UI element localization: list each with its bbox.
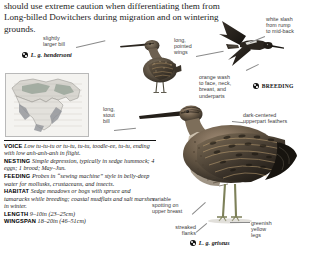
- label-greenish-yellow-legs: greenish yellow legs: [251, 220, 287, 239]
- fact-term-feeding: FEEDING: [4, 173, 30, 179]
- leader-line-legs: [230, 222, 250, 223]
- subspecies-marker-icon-2: [190, 240, 196, 246]
- label-white-slash-text: white slash from rump to mid-back: [266, 16, 294, 34]
- label-white-slash: white slash from rump to mid-back: [266, 16, 314, 35]
- range-map: [5, 73, 89, 137]
- subspecies-griseus-label: L. g. griseus: [199, 240, 230, 246]
- label-variable-spotting-text: variable spotting on upper breast: [152, 196, 182, 214]
- breeding-label: BREEDING: [262, 83, 294, 89]
- fact-feeding: FEEDING Probes in “sewing machine” style…: [4, 173, 156, 188]
- facts-divider: [4, 140, 156, 141]
- fact-term-nesting: NESTING: [4, 158, 30, 164]
- field-guide-page: should use extreme caution when differen…: [0, 0, 315, 253]
- breeding-marker-icon: [253, 83, 259, 89]
- subspecies-tag-hendersoni: L. g. hendersoni: [22, 52, 72, 58]
- label-long-pointed-wings: long, pointed wings: [174, 37, 208, 56]
- fact-wingspan: WINGSPAN 18–20in (46–51cm): [4, 218, 156, 225]
- fact-voice: VOICE Low tu-tu-tu or tu-tu, tu-tu, tood…: [4, 143, 156, 158]
- fact-term-habitat: HABITAT: [4, 188, 29, 194]
- season-tag-breeding: BREEDING: [253, 83, 294, 89]
- fact-text-voice: Low tu-tu-tu or tu-tu, tu-tu, toodle-ee,…: [4, 143, 150, 156]
- label-long-pointed-wings-text: long, pointed wings: [174, 37, 192, 55]
- fact-habitat: HABITAT Sedge meadows or bogs with spruc…: [4, 188, 156, 210]
- fact-term-voice: VOICE: [4, 143, 22, 149]
- fact-text-length: 9–10in (23–25cm): [30, 211, 75, 217]
- label-dark-centered-feathers-text: dark-centered upperpart feathers: [243, 112, 287, 124]
- species-facts: VOICE Low tu-tu-tu or tu-tu, tu-tu, tood…: [4, 143, 156, 226]
- label-long-stout-bill-text: long, stout bill: [103, 106, 115, 124]
- fact-term-wingspan: WINGSPAN: [4, 218, 36, 224]
- fact-nesting: NESTING Simple depression, typically in …: [4, 158, 156, 173]
- leader-line-stout-bill: [114, 128, 136, 131]
- fact-length: LENGTH 9–10in (23–25cm): [4, 211, 156, 218]
- subspecies-tag-griseus: L. g. griseus: [190, 240, 230, 246]
- label-orange-wash-text: orange wash to face, neck, breast, and u…: [199, 74, 231, 99]
- fact-text-wingspan: 18–20in (46–51cm): [38, 218, 86, 224]
- label-orange-wash: orange wash to face, neck, breast, and u…: [199, 74, 245, 99]
- fact-term-length: LENGTH: [4, 211, 28, 217]
- label-streaked-flanks: streaked flanks: [158, 224, 196, 236]
- label-slightly-larger-bill-text: slightly larger bill: [43, 35, 65, 47]
- label-dark-centered-feathers: dark-centered upperpart feathers: [243, 112, 309, 124]
- label-greenish-yellow-legs-text: greenish yellow legs: [251, 220, 272, 238]
- label-long-stout-bill: long, stout bill: [103, 106, 129, 125]
- label-variable-spotting: variable spotting on upper breast: [152, 196, 194, 215]
- label-streaked-flanks-text: streaked flanks: [175, 224, 196, 236]
- subspecies-hendersoni-label: L. g. hendersoni: [31, 52, 72, 58]
- subspecies-marker-icon: [22, 52, 28, 58]
